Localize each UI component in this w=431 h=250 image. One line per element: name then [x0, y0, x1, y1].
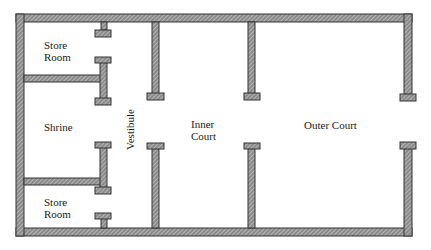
label-line: Inner [191, 118, 216, 130]
label-line: Room [44, 208, 71, 220]
label-line: Court [191, 130, 216, 142]
wall-inner-outer-upper [248, 22, 255, 94]
store-room-bottom-label: Store Room [44, 196, 71, 220]
label-line: Store [44, 196, 71, 208]
outer-wall-left [16, 14, 24, 236]
label-line: Room [44, 51, 71, 63]
shrine-label: Shrine [44, 121, 73, 133]
label-line: Store [44, 39, 71, 51]
store-room-top-label: Store Room [44, 39, 71, 63]
wall-store-shrine [24, 75, 104, 82]
vestibule-label: Vestibule [124, 109, 136, 150]
outer-wall-bottom [16, 228, 412, 236]
inner-court-label: Inner Court [191, 118, 216, 142]
wall-vestibule-inner-lower [152, 148, 159, 228]
wall-vestibule-inner-upper [152, 22, 159, 94]
wall-shrine-store [24, 178, 104, 185]
outer-wall-top [16, 14, 412, 22]
wall-inner-outer-lower [248, 148, 255, 228]
outer-wall-right-upper [404, 14, 412, 100]
outer-court-label: Outer Court [304, 119, 357, 131]
outer-wall-right-lower [404, 145, 412, 236]
